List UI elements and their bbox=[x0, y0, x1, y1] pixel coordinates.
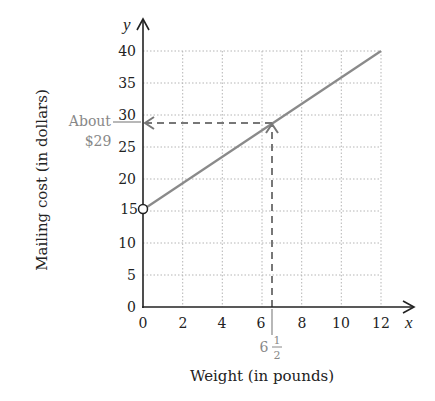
annot-x-numerator: 1 bbox=[274, 334, 281, 347]
y-tick-5: 5 bbox=[127, 267, 136, 283]
x-tick-10: 10 bbox=[332, 315, 350, 331]
x-tick-4: 4 bbox=[218, 315, 227, 331]
x-axis-variable: x bbox=[404, 313, 413, 332]
y-tick-30: 30 bbox=[118, 107, 136, 123]
y-tick-15: 15 bbox=[120, 201, 138, 217]
x-tick-6: 6 bbox=[257, 315, 266, 331]
open-circle-start-point bbox=[139, 205, 148, 214]
y-tick-25: 25 bbox=[118, 139, 136, 155]
x-tick-12: 12 bbox=[372, 315, 390, 331]
x-tick-2: 2 bbox=[179, 315, 188, 331]
y-tick-10: 10 bbox=[118, 235, 136, 251]
y-tick-labels: 0 5 10 15 20 25 30 35 40 bbox=[118, 43, 138, 315]
y-axis-title: Mailing cost (in dollars) bbox=[33, 89, 51, 271]
grid bbox=[143, 51, 381, 307]
y-tick-20: 20 bbox=[118, 171, 136, 187]
x-tick-8: 8 bbox=[298, 315, 307, 331]
annot-value-label: $29 bbox=[85, 133, 112, 149]
line-chart: 0 5 10 15 20 25 30 35 40 0 2 4 6 8 10 12… bbox=[0, 0, 435, 401]
y-tick-0: 0 bbox=[127, 299, 136, 315]
annot-x-whole: 6 bbox=[260, 339, 269, 355]
annot-about-label: About bbox=[68, 113, 112, 129]
x-tick-0: 0 bbox=[139, 315, 148, 331]
x-axis-title: Weight (in pounds) bbox=[190, 367, 334, 385]
y-tick-40: 40 bbox=[118, 43, 136, 59]
y-tick-35: 35 bbox=[118, 75, 136, 91]
axes bbox=[137, 19, 414, 313]
lookup-lines bbox=[145, 117, 278, 307]
annot-x-denominator: 2 bbox=[274, 349, 281, 362]
y-axis-variable: y bbox=[121, 15, 131, 34]
cost-line bbox=[147, 51, 381, 207]
x-tick-labels: 0 2 4 6 8 10 12 bbox=[139, 315, 390, 331]
